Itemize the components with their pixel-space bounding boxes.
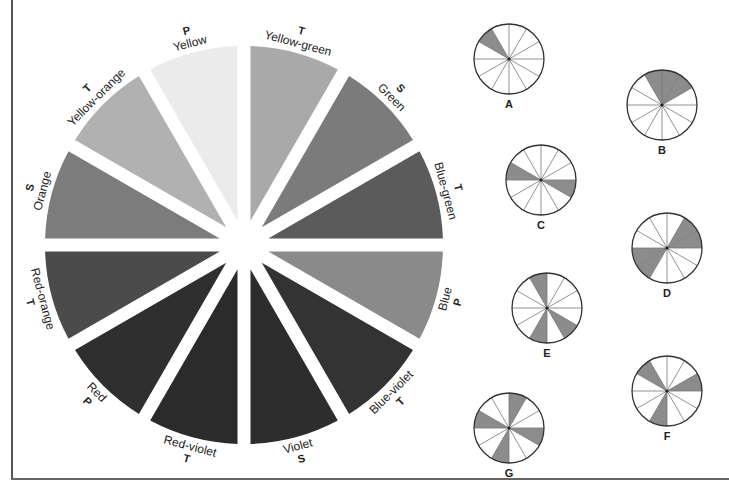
scheme-wheel-a: A [474, 24, 544, 110]
main-color-wheel [45, 46, 443, 444]
wheel-type-orange: S [23, 182, 36, 192]
scheme-wheel-e: E [512, 273, 582, 359]
wheel-type-red-orange: T [24, 297, 37, 307]
scheme-wheel-g: G [474, 393, 544, 479]
scheme-wheel-label: F [664, 430, 671, 442]
scheme-wheel-label: E [543, 347, 550, 359]
scheme-wheel-label: B [658, 144, 666, 156]
scheme-wheel-d: D [632, 213, 702, 299]
scheme-wheel-c: C [506, 145, 576, 231]
wheel-type-yellow-green: T [297, 24, 307, 37]
scheme-wheel-label: A [505, 98, 513, 110]
wheel-type-blue-green: T [452, 183, 465, 193]
scheme-wheel-label: C [537, 219, 545, 231]
wheel-type-violet: S [296, 452, 306, 465]
scheme-wheel-label: D [663, 287, 671, 299]
color-wheel-diagram: Yellow-greenTGreenSBlue-greenTBluePBlue-… [0, 0, 729, 492]
wheel-type-blue-violet: T [394, 394, 407, 407]
scheme-wheel-f: F [632, 356, 702, 442]
scheme-wheel-b: B [627, 70, 697, 156]
scheme-wheel-label: G [505, 467, 514, 479]
main-wheel-labels: Yellow-greenTGreenSBlue-greenTBluePBlue-… [23, 24, 466, 465]
wheel-type-blue: P [451, 297, 464, 307]
wheel-type-red-violet: T [182, 452, 192, 465]
wheel-type-red: P [81, 394, 95, 408]
wheel-type-yellow: P [181, 24, 191, 37]
color-scheme-wheels: ABCDEFG [474, 24, 702, 479]
